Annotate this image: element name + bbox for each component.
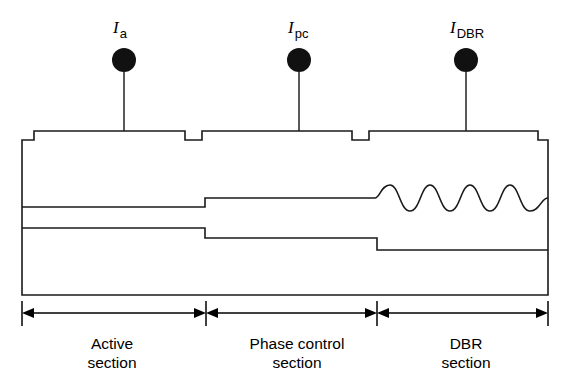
current-label-active: Ia [112,18,128,41]
waveguide-upper-boundary [22,185,548,211]
section-label-active-line1: Active [91,335,133,352]
current-subscript-dbr: DBR [457,26,484,41]
contact-pad-dbr[interactable] [454,48,478,72]
section-label-phase-line2: section [272,354,321,371]
current-label-dbr: IDBR [449,18,484,41]
electrode-group-dbr: IDBR [449,18,484,131]
arrow-head-right-dbr [536,308,548,318]
section-caption-phase-control: Phase control section [250,335,345,371]
contact-pad-phase-control[interactable] [287,48,311,72]
arrow-head-left-active [22,308,34,318]
section-label-active-line2: section [87,354,136,371]
device-body-outline [22,131,548,295]
current-subscript-phase-control: pc [295,26,309,41]
arrow-head-right-active [194,308,206,318]
electrode-group-phase-control: Ipc [287,18,311,131]
arrow-head-right-phase [365,308,377,318]
section-label-dbr-line2: section [441,354,490,371]
waveguide-lower-boundary [22,228,548,250]
current-label-phase-control: Ipc [287,18,309,41]
section-label-dbr-line1: DBR [450,335,483,352]
arrow-head-left-phase [206,308,218,318]
contact-pad-active[interactable] [112,48,136,72]
electrode-group-active: Ia [112,18,136,131]
diagram-canvas: Ia Ipc IDBR [0,0,571,387]
arrow-head-left-dbr [377,308,389,318]
section-caption-active: Active section [87,335,136,371]
dimension-arrow-dbr [377,308,548,318]
current-subscript-active: a [120,26,128,41]
dbr-laser-diagram: Ia Ipc IDBR [0,0,571,387]
dimension-arrow-active [22,308,206,318]
section-caption-dbr: DBR section [441,335,490,371]
dimension-arrow-phase-control [206,308,377,318]
section-label-phase-line1: Phase control [250,335,345,352]
